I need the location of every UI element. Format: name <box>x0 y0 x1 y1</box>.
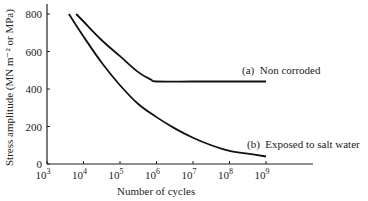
x-axis-label: Number of cycles <box>117 185 195 197</box>
y-axis-label: Stress amplitude (MN m⁻² or MPa) <box>3 9 16 166</box>
y-tick-label: 200 <box>26 121 43 133</box>
x-tick-label: 105 <box>109 167 124 181</box>
y-tick-label: 800 <box>26 8 43 20</box>
x-tick-label: 109 <box>255 167 270 181</box>
y-tick-label: 400 <box>26 83 43 95</box>
series-label-non-corroded: (a) Non corroded <box>242 64 321 77</box>
x-tick-label: 106 <box>145 167 160 181</box>
x-tick-label: 104 <box>72 167 87 181</box>
x-tick-label: 107 <box>182 167 197 181</box>
series-label-salt-water: (b) Exposed to salt water <box>247 138 360 151</box>
s-n-curve-chart: 0200400600800 103104105106107108109 (a) … <box>0 0 368 201</box>
series-lines <box>69 14 266 157</box>
series-line-salt-water <box>69 14 266 157</box>
x-tick-label: 103 <box>36 167 51 181</box>
x-tick-label: 108 <box>218 167 233 181</box>
y-tick-label: 600 <box>26 46 43 58</box>
y-ticks: 0200400600800 <box>26 8 51 170</box>
series-line-non-corroded <box>76 14 266 82</box>
